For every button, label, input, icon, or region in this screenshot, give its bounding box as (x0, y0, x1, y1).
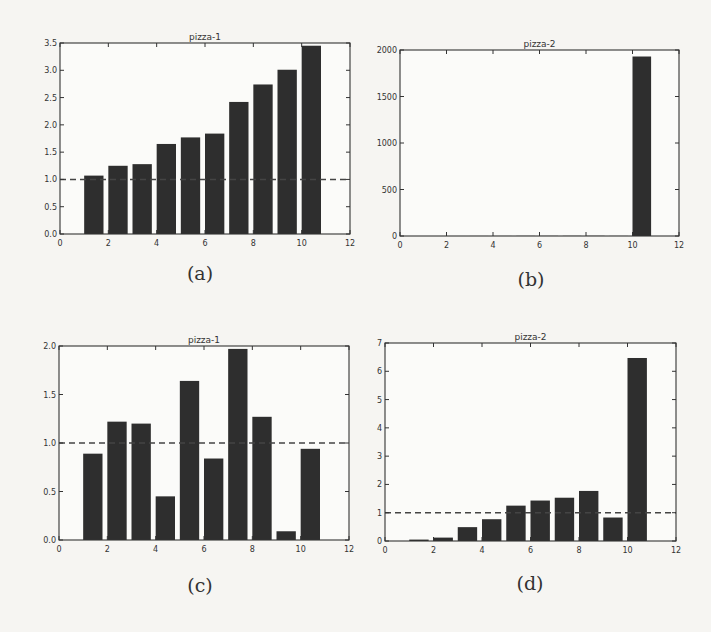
bar (603, 518, 622, 541)
y-tick-label: 1 (377, 509, 382, 518)
y-tick-label: 3 (377, 452, 382, 461)
y-tick-label: 5 (377, 396, 382, 405)
y-tick-label: 7 (377, 339, 382, 348)
bar (579, 491, 598, 541)
x-tick-label: 2 (431, 546, 436, 555)
bar (531, 501, 550, 541)
x-tick-label: 12 (671, 546, 681, 555)
chart-title: pizza-2 (514, 332, 546, 342)
bar (506, 506, 525, 541)
bar (458, 527, 477, 541)
y-tick-label: 0 (377, 537, 382, 546)
x-tick-label: 0 (382, 546, 387, 555)
x-tick-label: 6 (528, 546, 533, 555)
y-tick-label: 4 (377, 424, 382, 433)
y-tick-label: 6 (377, 367, 382, 376)
x-tick-label: 10 (622, 546, 632, 555)
caption-d: (d) (517, 572, 544, 594)
x-tick-label: 4 (479, 546, 484, 555)
bar (555, 498, 574, 541)
bar-chart-d: 02468101201234567pizza-2 (0, 0, 711, 632)
bar (628, 358, 647, 541)
subfigure-d: 02468101201234567pizza-2 (d) (0, 0, 711, 632)
x-tick-label: 8 (576, 546, 581, 555)
bar (482, 519, 501, 541)
y-tick-label: 2 (377, 480, 382, 489)
